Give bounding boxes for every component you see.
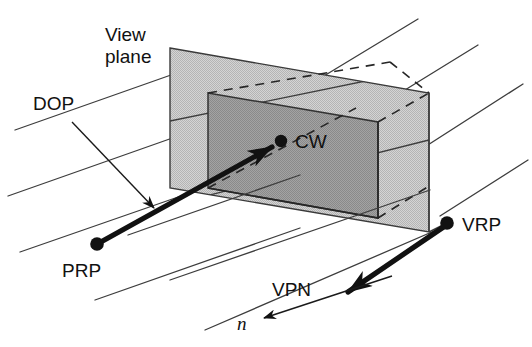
cw-point-marker <box>275 135 287 147</box>
cw-label: CW <box>295 131 327 152</box>
prp-point-marker <box>90 237 104 251</box>
view-plane-label-line2: plane <box>105 46 152 67</box>
vrp-point-marker <box>440 216 454 230</box>
vpn-label: VPN <box>272 279 311 300</box>
n-label: n <box>237 313 247 334</box>
vrp-label: VRP <box>462 214 501 235</box>
view-plane-diagram: View plane DOP CW PRP VRP VPN n <box>0 0 532 347</box>
view-plane-label-line1: View <box>105 24 146 45</box>
dop-label: DOP <box>33 93 74 114</box>
prp-label: PRP <box>62 260 101 281</box>
